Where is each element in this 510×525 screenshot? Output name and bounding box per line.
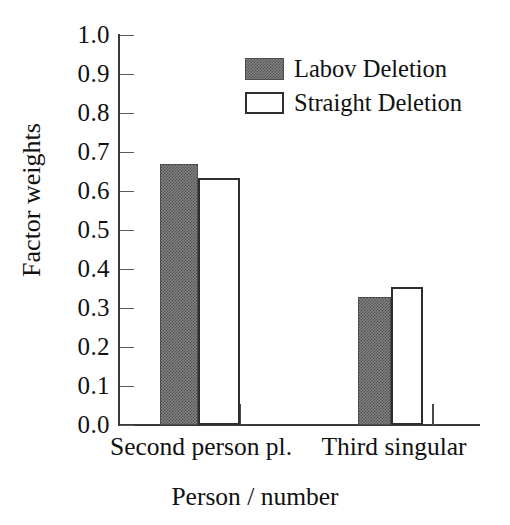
y-tick-text: 0.3	[54, 295, 110, 320]
y-tick-text: 0.8	[54, 100, 110, 125]
x-axis-category-label-0: Second person pl.	[110, 432, 258, 462]
legend-swatch-white-icon	[245, 92, 284, 114]
y-tick-text: 1.0	[54, 22, 110, 47]
y-axis-tick-0.0	[120, 425, 134, 426]
bar-labov-second-person-pl	[160, 164, 198, 425]
y-tick-text: 0.6	[54, 178, 110, 203]
bar-straight-second-person-pl	[198, 178, 240, 425]
legend-label-straight-deletion: Straight Deletion	[294, 90, 462, 116]
legend-item-straight-deletion: Straight Deletion	[245, 88, 500, 117]
x-axis-title: Person / number	[0, 482, 510, 512]
y-axis-title: Factor weights	[18, 70, 46, 330]
y-tick-text: 0.7	[54, 139, 110, 164]
legend-label-labov-deletion: Labov Deletion	[294, 56, 447, 82]
legend-item-labov-deletion: Labov Deletion	[245, 54, 500, 83]
bar-chart-figure: 1.0 0.9 0.8 0.7 0.6 0.5 0.4 0.3 0.2 0.1 …	[0, 0, 510, 525]
y-axis-title-host: Factor weights	[0, 0, 1, 1]
legend-swatch-gray-icon	[245, 58, 284, 80]
y-tick-text: 0.9	[54, 61, 110, 86]
y-tick-text: 0.0	[54, 412, 110, 437]
y-tick-text: 0.1	[54, 373, 110, 398]
bar-labov-third-singular	[358, 297, 391, 425]
bar-straight-third-singular	[391, 287, 423, 425]
y-tick-text: 0.2	[54, 334, 110, 359]
y-tick-text: 0.5	[54, 217, 110, 242]
legend: Labov Deletion Straight Deletion	[245, 54, 500, 122]
x-axis-category-label-1: Third singular	[320, 432, 468, 462]
y-tick-text: 0.4	[54, 256, 110, 281]
